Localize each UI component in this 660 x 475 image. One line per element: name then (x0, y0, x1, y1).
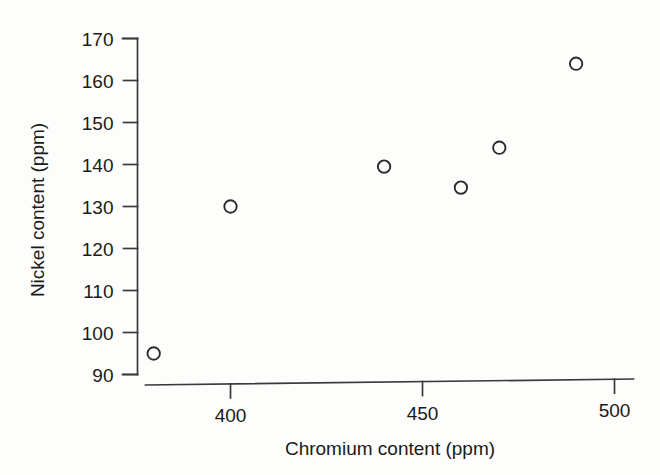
data-point (148, 347, 160, 359)
y-tick-label: 130 (82, 197, 114, 218)
data-point (455, 181, 467, 193)
y-tick-group (124, 39, 138, 375)
y-tick-label: 160 (82, 71, 114, 92)
data-point (378, 160, 390, 172)
scatter-plot-figure: 90100110120130140150160170 400450500 Nic… (0, 0, 660, 475)
data-point (570, 58, 582, 70)
y-tick-label: 150 (82, 113, 114, 134)
y-axis: 90100110120130140150160170 (82, 29, 138, 386)
y-tick-label-group: 90100110120130140150160170 (82, 29, 114, 386)
plot-canvas: 90100110120130140150160170 400450500 Nic… (0, 0, 660, 475)
x-axis-title: Chromium content (ppm) (285, 438, 495, 459)
y-tick-label: 90 (92, 365, 113, 386)
x-tick-label: 500 (599, 400, 631, 421)
y-tick-label: 140 (82, 155, 114, 176)
y-tick-label: 100 (82, 323, 114, 344)
y-tick-label: 170 (82, 29, 114, 50)
x-tick-label: 400 (215, 405, 247, 426)
x-tick-label: 450 (407, 403, 439, 424)
y-tick-label: 110 (83, 281, 113, 302)
x-tick-label-group: 400450500 (215, 400, 631, 426)
x-axis: 400450500 (146, 379, 634, 426)
y-axis-title: Nickel content (ppm) (27, 123, 48, 297)
data-point-group (148, 58, 583, 360)
data-point (493, 142, 505, 154)
data-point (224, 200, 236, 212)
x-tick-group (231, 379, 615, 398)
y-tick-label: 120 (82, 239, 114, 260)
x-axis-line (146, 379, 634, 385)
